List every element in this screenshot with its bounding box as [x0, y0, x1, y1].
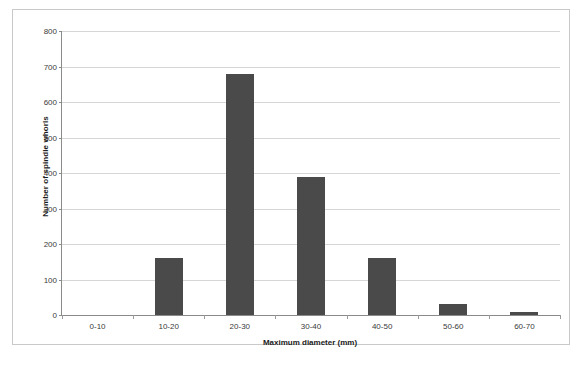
y-tick-label: 100 [44, 275, 57, 284]
bar[interactable] [155, 258, 183, 315]
bar-group: 0-10 [62, 31, 133, 315]
x-tick-mark [62, 315, 63, 319]
bar-group: 20-30 [204, 31, 275, 315]
bar-group: 60-70 [489, 31, 560, 315]
bar[interactable] [368, 258, 396, 315]
y-tick-label: 600 [44, 98, 57, 107]
x-tick-label: 10-20 [158, 322, 178, 331]
bar[interactable] [226, 74, 254, 315]
bar[interactable] [439, 304, 467, 315]
x-tick-mark [560, 315, 561, 319]
x-tick-mark [489, 315, 490, 319]
y-tick-label: 500 [44, 133, 57, 142]
y-tick-label: 300 [44, 204, 57, 213]
y-tick-label: 800 [44, 27, 57, 36]
bar-group: 50-60 [418, 31, 489, 315]
x-tick-mark [275, 315, 276, 319]
x-tick-mark [347, 315, 348, 319]
x-tick-label: 60-70 [514, 322, 534, 331]
bar-group: 30-40 [275, 31, 346, 315]
y-gridline [62, 315, 560, 316]
plot-area: 80070060050040030020010000-1010-2020-303… [61, 31, 560, 316]
x-tick-label: 50-60 [443, 322, 463, 331]
bar[interactable] [297, 177, 325, 315]
bar-group: 40-50 [347, 31, 418, 315]
x-tick-label: 0-10 [90, 322, 106, 331]
x-tick-mark [204, 315, 205, 319]
x-tick-label: 30-40 [301, 322, 321, 331]
bar[interactable] [510, 312, 538, 315]
chart-figure: Number of spindle whorls 800700600500400… [0, 0, 585, 373]
y-tick-label: 400 [44, 169, 57, 178]
x-tick-label: 20-30 [230, 322, 250, 331]
x-tick-label: 40-50 [372, 322, 392, 331]
y-tick-label: 0 [53, 311, 57, 320]
chart-frame: Number of spindle whorls 800700600500400… [12, 9, 570, 345]
bar-group: 10-20 [133, 31, 204, 315]
y-tick-label: 700 [44, 62, 57, 71]
x-axis-title: Maximum diameter (mm) [61, 338, 559, 347]
x-tick-mark [418, 315, 419, 319]
y-tick-label: 200 [44, 240, 57, 249]
x-tick-mark [133, 315, 134, 319]
